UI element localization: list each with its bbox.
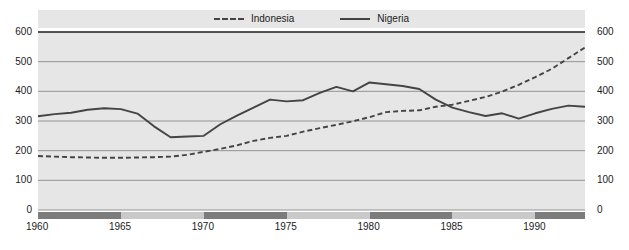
x-tick-label-1985: 1985 [440,222,470,232]
x-axis-band-segment [38,212,121,219]
legend-swatch-solid-icon [340,18,370,20]
y-tick-label-left-200: 200 [4,146,32,156]
x-tick-label-1990: 1990 [523,222,553,232]
x-tick-label-1965: 1965 [109,222,139,232]
x-axis-band-segment [204,212,287,219]
x-axis-band [38,212,585,219]
x-axis-band-segment [121,212,204,219]
x-axis-band-segment [287,212,370,219]
x-axis-band-segment [370,212,453,219]
plot-area [38,32,585,210]
y-tick-label-right-600: 600 [597,27,625,37]
x-axis-band-segment [535,212,585,219]
series-line-indonesia [38,47,585,157]
x-tick-label-1970: 1970 [192,222,222,232]
y-tick-label-right-100: 100 [597,175,625,185]
legend-swatch-dashed-icon [214,18,244,20]
x-tick-label-1975: 1975 [275,222,305,232]
y-tick-label-left-600: 600 [4,27,32,37]
y-tick-label-left-300: 300 [4,116,32,126]
x-axis-band-segment [452,212,535,219]
legend-item-nigeria: Nigeria [340,14,409,24]
y-tick-label-left-100: 100 [4,175,32,185]
y-tick-label-left-0: 0 [4,205,32,215]
chart-legend: IndonesiaNigeria [38,10,585,28]
chart-container: IndonesiaNigeria 00100100200200300300400… [0,0,629,250]
y-tick-label-right-300: 300 [597,116,625,126]
legend-label: Nigeria [377,14,409,24]
y-tick-label-right-200: 200 [597,146,625,156]
y-tick-label-right-0: 0 [597,205,625,215]
y-tick-label-left-500: 500 [4,57,32,67]
y-tick-label-right-400: 400 [597,86,625,96]
legend-label: Indonesia [251,14,294,24]
x-tick-label-1980: 1980 [358,222,388,232]
y-tick-label-left-400: 400 [4,86,32,96]
y-tick-label-right-500: 500 [597,57,625,67]
legend-item-indonesia: Indonesia [214,14,294,24]
x-tick-label-1960: 1960 [26,222,56,232]
